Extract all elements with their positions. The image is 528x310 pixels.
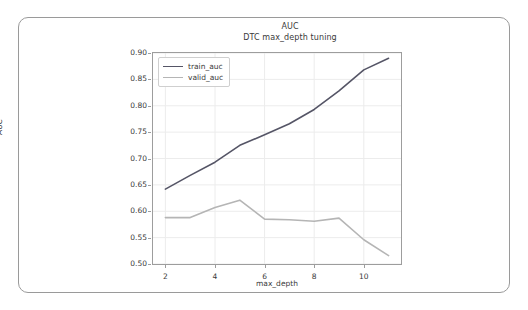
legend-item-train-auc[interactable]: train_auc: [163, 61, 223, 72]
y-tick-mark: [148, 79, 151, 80]
y-tick-label: 0.70: [130, 154, 147, 163]
y-axis-tick-labels: 0.500.550.600.650.700.750.800.850.90: [112, 52, 147, 265]
page-title: AUC: [155, 21, 425, 32]
y-tick-label: 0.75: [130, 127, 147, 136]
plot-area: train_aucvalid_auc: [152, 52, 402, 265]
y-tick-mark: [148, 53, 151, 54]
series-line-valid-auc: [165, 200, 388, 255]
legend-label: valid_auc: [188, 73, 223, 82]
chart-title-block: AUC DTC max_depth tuning: [155, 21, 425, 43]
legend-item-valid-auc[interactable]: valid_auc: [163, 72, 223, 83]
chart-figure: AUC DTC max_depth tuning 0.500.550.600.6…: [0, 0, 528, 310]
y-tick-mark: [148, 106, 151, 107]
chart-subtitle: DTC max_depth tuning: [155, 32, 425, 43]
y-tick-mark: [148, 211, 151, 212]
x-tick-mark: [364, 265, 365, 268]
x-tick-mark: [165, 265, 166, 268]
y-tick-label: 0.90: [130, 48, 147, 57]
legend-swatch-icon: [163, 77, 183, 78]
legend-swatch-icon: [163, 66, 183, 67]
chart-legend[interactable]: train_aucvalid_auc: [158, 57, 230, 87]
y-tick-label: 0.50: [130, 259, 147, 268]
legend-label: train_auc: [188, 62, 223, 71]
x-tick-mark: [215, 265, 216, 268]
y-axis-label: AUC: [0, 119, 4, 135]
x-tick-mark: [265, 265, 266, 268]
y-tick-mark: [148, 264, 151, 265]
y-tick-label: 0.85: [130, 74, 147, 83]
y-tick-label: 0.65: [130, 180, 147, 189]
x-tick-mark: [314, 265, 315, 268]
y-tick-label: 0.60: [130, 206, 147, 215]
y-tick-mark: [148, 238, 151, 239]
x-axis-label: max_depth: [152, 279, 402, 288]
y-tick-mark: [148, 132, 151, 133]
y-tick-label: 0.80: [130, 101, 147, 110]
y-tick-mark: [148, 159, 151, 160]
y-tick-mark: [148, 185, 151, 186]
screenshot-root: AUC DTC max_depth tuning 0.500.550.600.6…: [0, 0, 528, 310]
y-tick-label: 0.55: [130, 233, 147, 242]
